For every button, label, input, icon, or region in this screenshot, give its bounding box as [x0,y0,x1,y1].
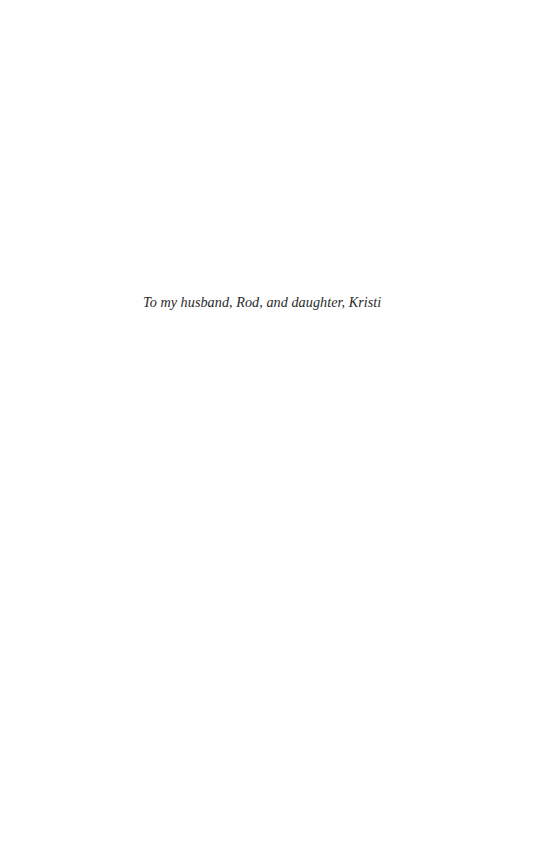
dedication-page: To my husband, Rod, and daughter, Kristi [0,0,537,854]
dedication-text: To my husband, Rod, and daughter, Kristi [143,294,381,311]
